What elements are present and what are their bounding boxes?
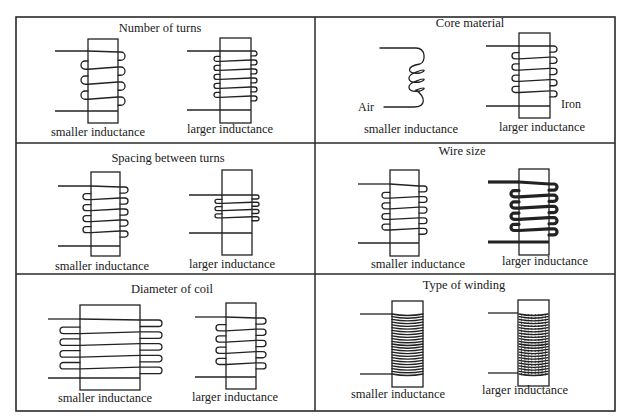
core-rect	[226, 303, 256, 389]
caption-smaller: smaller inductance	[58, 391, 153, 405]
larger-inductance-illustration	[195, 303, 266, 389]
smaller-inductance-illustration	[360, 301, 423, 387]
panel-title: Core material	[436, 16, 505, 30]
panel-wire-size: Wire size smaller inductance larger indu…	[358, 144, 589, 271]
larger-inductance-illustration	[488, 169, 557, 255]
panel-title: Wire size	[438, 144, 485, 158]
core-rect	[91, 172, 120, 256]
panel-core-material: Core material Air Iron smaller inductanc…	[358, 16, 586, 136]
larger-inductance-illustration	[488, 300, 549, 386]
caption-larger: larger inductance	[187, 122, 274, 136]
caption-larger: larger inductance	[502, 254, 589, 268]
caption-smaller: smaller inductance	[55, 259, 150, 273]
coil-illustrations	[380, 33, 557, 118]
core-rect	[222, 170, 252, 255]
panel-title: Spacing between turns	[111, 151, 224, 165]
caption-smaller: smaller inductance	[371, 257, 466, 271]
caption-larger: larger inductance	[189, 257, 276, 271]
coil-illustrations	[358, 169, 557, 256]
caption-smaller: smaller inductance	[364, 122, 459, 136]
coil-illustrations	[360, 300, 549, 387]
core-rect	[80, 305, 140, 390]
caption-smaller: smaller inductance	[51, 125, 146, 139]
inductance-factors-diagram: Number of turns smaller inductance large…	[0, 0, 626, 416]
panel-type-of-winding: Type of winding smaller inductance large…	[351, 278, 569, 401]
panel-number-of-turns: Number of turns smaller inductance large…	[51, 21, 274, 139]
panel-title: Type of winding	[423, 278, 506, 292]
caption-larger: larger inductance	[499, 120, 586, 134]
smaller-inductance-illustration	[58, 172, 128, 256]
coil-illustrations	[48, 303, 266, 390]
smaller-inductance-illustration	[380, 48, 424, 107]
caption-smaller: smaller inductance	[351, 387, 446, 401]
air-coil	[380, 48, 424, 107]
panel-spacing-between-turns: Spacing between turns smaller inductance…	[55, 151, 276, 273]
panel-title: Number of turns	[119, 21, 202, 35]
smaller-inductance-illustration	[358, 170, 427, 256]
iron-label: Iron	[561, 97, 581, 111]
larger-inductance-illustration	[189, 170, 259, 255]
larger-inductance-illustration	[486, 33, 557, 118]
panel-diameter-of-coil: Diameter of coil smaller inductance larg…	[48, 282, 279, 405]
coil-illustrations	[58, 170, 259, 256]
coil-illustrations	[55, 38, 257, 123]
core-rect	[392, 301, 423, 387]
larger-inductance-illustration	[187, 38, 257, 123]
panel-title: Diameter of coil	[131, 282, 213, 296]
smaller-inductance-illustration	[55, 39, 125, 123]
diagram-canvas: Number of turns smaller inductance large…	[0, 0, 626, 416]
caption-larger: larger inductance	[192, 390, 279, 404]
air-label: Air	[358, 100, 374, 114]
smaller-inductance-illustration	[48, 305, 162, 390]
caption-larger: larger inductance	[482, 383, 569, 397]
